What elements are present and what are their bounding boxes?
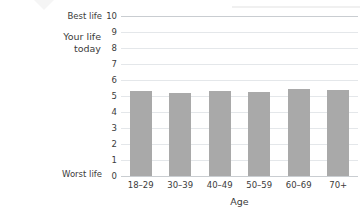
x-tick-label: 40–49 xyxy=(207,180,233,190)
y-tick-label: 2 xyxy=(99,139,117,149)
bar-slot[interactable] xyxy=(319,16,359,176)
y-axis-title-line-1: Your life xyxy=(9,31,101,43)
y-tick-label: 6 xyxy=(99,75,117,85)
bar[interactable] xyxy=(327,90,349,176)
y-tick-label: 9 xyxy=(99,27,117,37)
bar-slot[interactable] xyxy=(240,16,280,176)
bar[interactable] xyxy=(209,91,231,176)
worst-life-annotation: Worst life xyxy=(51,169,102,179)
y-tick-label: 10 xyxy=(99,11,117,21)
bar-slot[interactable] xyxy=(121,16,161,176)
x-tick-label: 18–29 xyxy=(128,180,154,190)
x-axis-title: Age xyxy=(121,196,358,207)
y-tick-label: 4 xyxy=(99,107,117,117)
bar-slot[interactable] xyxy=(279,16,319,176)
y-tick-label: 5 xyxy=(99,91,117,101)
x-tick-label: 60–69 xyxy=(286,180,312,190)
bar-chart-figure: Your life today Best life Worst life Age… xyxy=(0,0,363,216)
page-scan-artifact-line xyxy=(232,6,360,8)
y-tick-label: 0 xyxy=(99,171,117,181)
bar-slot[interactable] xyxy=(161,16,201,176)
y-tick-label: 7 xyxy=(99,59,117,69)
grid-line xyxy=(121,176,358,177)
page-scan-artifact xyxy=(28,0,60,10)
y-axis-title-line-2: today xyxy=(9,43,101,55)
x-tick-label: 30–39 xyxy=(167,180,193,190)
bars-layer xyxy=(121,16,358,176)
x-tick-label: 50–59 xyxy=(246,180,272,190)
bar[interactable] xyxy=(169,93,191,176)
bar-slot[interactable] xyxy=(200,16,240,176)
x-tick-label: 70+ xyxy=(329,180,347,190)
y-axis-title: Your life today xyxy=(9,31,101,54)
y-tick-label: 8 xyxy=(99,43,117,53)
y-tick-label: 3 xyxy=(99,123,117,133)
bar[interactable] xyxy=(130,91,152,176)
best-life-annotation: Best life xyxy=(58,11,102,21)
bar[interactable] xyxy=(248,92,270,176)
y-tick-label: 1 xyxy=(99,155,117,165)
bar[interactable] xyxy=(288,89,310,176)
